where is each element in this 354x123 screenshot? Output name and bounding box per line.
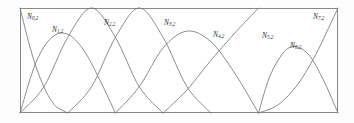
curve-label-5-2: N5,2	[262, 32, 273, 40]
curve-label-4-2: N4,2	[213, 31, 224, 39]
curve-label-2-2: N2,2	[104, 19, 115, 27]
label-subscript: 0,2	[32, 15, 38, 21]
label-subscript: 3,2	[169, 21, 175, 27]
plot-area	[0, 0, 354, 123]
label-subscript: 1,2	[57, 28, 63, 34]
curve-label-6-2: N6,2	[290, 42, 301, 50]
curve-label-0-2: N0,2	[27, 13, 38, 21]
label-subscript: 4,2	[218, 33, 224, 39]
b-spline-basis-figure: N0,2N1,2N2,2N3,2N4,2N5,2N6,2N7,2	[0, 0, 354, 123]
label-subscript: 6,2	[295, 44, 301, 50]
label-subscript: 7,2	[318, 15, 324, 21]
curve-label-3-2: N3,2	[164, 19, 175, 27]
plot-frame	[21, 9, 338, 113]
label-subscript: 2,2	[109, 21, 115, 27]
label-subscript: 5,2	[267, 34, 273, 40]
curve-label-7-2: N7,2	[313, 13, 324, 21]
curve-label-1-2: N1,2	[52, 26, 63, 34]
